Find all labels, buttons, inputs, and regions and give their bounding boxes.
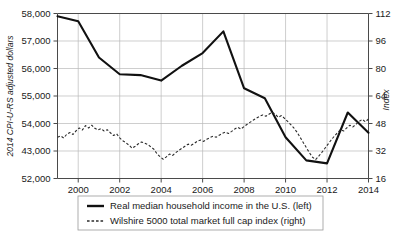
line-chart: 52,00043,00054,00055,00056,00057,00058,0… bbox=[0, 0, 401, 234]
x-tick-label: 2014 bbox=[358, 184, 379, 195]
y2-tick-label: 96 bbox=[376, 35, 387, 46]
y-tick-label: 43,000 bbox=[21, 145, 50, 156]
x-tick-label: 2012 bbox=[316, 184, 337, 195]
x-tick-label: 2008 bbox=[234, 184, 255, 195]
left-axis-title: 2014 CPI-U-RS adjusted dollars bbox=[5, 35, 15, 158]
y-tick-label: 57,000 bbox=[21, 35, 50, 46]
chart-legend: Real median household income in the U.S.… bbox=[78, 196, 323, 230]
y-tick-label: 52,000 bbox=[21, 173, 50, 184]
y2-tick-label: 80 bbox=[376, 63, 387, 74]
y-tick-label: 56,000 bbox=[21, 63, 50, 74]
x-tick-label: 2000 bbox=[68, 184, 89, 195]
legend-label-wilshire: Wilshire 5000 total market full cap inde… bbox=[110, 215, 305, 226]
x-tick-label: 2006 bbox=[192, 184, 213, 195]
y-tick-label: 55,000 bbox=[21, 90, 50, 101]
y-tick-label: 58,000 bbox=[21, 8, 50, 19]
x-tick-label: 2004 bbox=[151, 184, 172, 195]
y2-tick-label: 112 bbox=[376, 8, 391, 19]
legend-label-income: Real median household income in the U.S.… bbox=[110, 200, 312, 211]
y2-tick-label: 16 bbox=[376, 173, 387, 184]
y-tick-label: 54,000 bbox=[21, 118, 50, 129]
y2-tick-label: 32 bbox=[376, 145, 387, 156]
x-tick-label: 2002 bbox=[109, 184, 130, 195]
x-tick-label: 2010 bbox=[275, 184, 296, 195]
right-axis-title: Index bbox=[381, 89, 391, 111]
y2-tick-label: 48 bbox=[376, 118, 387, 129]
chart-figure: 52,00043,00054,00055,00056,00057,00058,0… bbox=[0, 0, 401, 234]
